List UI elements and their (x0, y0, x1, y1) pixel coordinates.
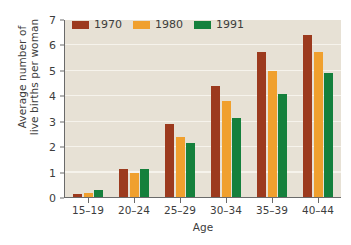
bar[interactable] (257, 52, 266, 198)
x-axis-tick-label: 25–29 (164, 204, 196, 216)
x-axis-tick-mark (226, 198, 227, 203)
legend-item[interactable]: 1991 (194, 19, 244, 30)
y-axis-tick-label: 3 (40, 115, 56, 128)
x-axis-tick-labels: 15–1920–2425–2930–3435–3940–44 (65, 204, 341, 220)
x-axis-tick-label: 30–34 (210, 204, 242, 216)
legend: 197019801991 (72, 19, 244, 30)
y-axis-tick-label: 6 (40, 39, 56, 52)
x-axis-tick-label: 40–44 (302, 204, 334, 216)
y-axis-line (64, 20, 65, 198)
x-axis-tick-label: 20–24 (118, 204, 150, 216)
legend-item[interactable]: 1970 (72, 19, 122, 30)
x-axis-title: Age (65, 221, 341, 233)
bar[interactable] (314, 52, 323, 198)
bar-group (119, 20, 149, 198)
legend-swatch (72, 21, 89, 29)
y-axis-tick-label: 4 (40, 90, 56, 103)
x-axis-tick-marks (65, 198, 341, 203)
x-axis-tick-label: 15–19 (72, 204, 104, 216)
y-axis-tick-label: 1 (40, 166, 56, 179)
y-axis-tick-label: 7 (40, 14, 56, 27)
bar[interactable] (130, 173, 139, 198)
bar-series-container (65, 20, 341, 198)
bar[interactable] (222, 101, 231, 198)
bar[interactable] (324, 73, 333, 198)
bar-group (257, 20, 287, 198)
x-axis-tick-mark (272, 198, 273, 203)
plot-area (65, 20, 341, 198)
y-axis-tick-label: 0 (40, 192, 56, 205)
bar[interactable] (232, 118, 241, 198)
bar-group (73, 20, 103, 198)
x-axis-tick-mark (88, 198, 89, 203)
bar[interactable] (211, 86, 220, 198)
bar[interactable] (165, 124, 174, 198)
legend-swatch (133, 21, 150, 29)
y-axis-title: Average number of live births per woman (13, 0, 43, 157)
legend-item[interactable]: 1980 (133, 19, 183, 30)
x-axis-tick-mark (318, 198, 319, 203)
bar[interactable] (140, 169, 149, 198)
legend-label: 1970 (94, 19, 122, 30)
y-axis-title-line-1: Average number of (16, 26, 28, 129)
legend-swatch (194, 21, 211, 29)
y-axis-title-line-2: live births per woman (28, 19, 40, 136)
bar[interactable] (119, 169, 128, 198)
y-axis-tick-label: 2 (40, 141, 56, 154)
x-axis-tick-mark (180, 198, 181, 203)
bar[interactable] (176, 137, 185, 198)
bar-group (303, 20, 333, 198)
bar-group (211, 20, 241, 198)
bar[interactable] (268, 71, 277, 198)
bar[interactable] (278, 94, 287, 198)
bar-chart-figure: Average number of live births per woman … (0, 0, 351, 245)
y-axis-tick-label: 5 (40, 64, 56, 77)
x-axis-tick-label: 35–39 (256, 204, 288, 216)
x-axis-tick-mark (134, 198, 135, 203)
y-axis-tick-labels: 01234567 (40, 14, 56, 204)
bar[interactable] (303, 35, 312, 198)
legend-label: 1991 (216, 19, 244, 30)
bar-group (165, 20, 195, 198)
bar[interactable] (186, 143, 195, 198)
legend-label: 1980 (155, 19, 183, 30)
